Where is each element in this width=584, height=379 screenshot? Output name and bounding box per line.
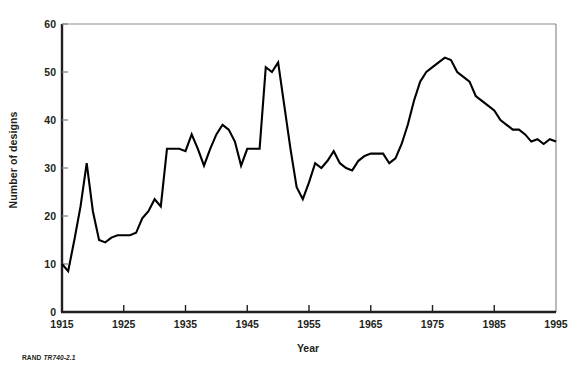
plot-area: [0, 0, 584, 379]
credit-brand: RAND: [22, 354, 41, 361]
data-series-group: [62, 58, 556, 272]
data-line: [62, 58, 556, 272]
credit-document-id: TR740-2.1: [43, 354, 75, 361]
x-axis-title-label: Year: [297, 342, 319, 354]
figure-credit: RAND TR740-2.1: [22, 354, 75, 361]
x-axis-title: Year: [0, 342, 584, 354]
axis-lines: [61, 24, 556, 312]
chart-figure: Number of designs 0102030405060 19151925…: [0, 0, 584, 379]
